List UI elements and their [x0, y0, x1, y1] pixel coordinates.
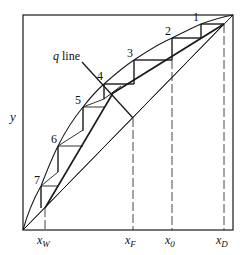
intersection-mark [104, 86, 121, 99]
stage-label-6: 6 [51, 132, 57, 146]
stage-label-3: 3 [127, 46, 133, 60]
mccabe-thiele-diagram: 1 2 3 4 5 6 7 q line y xW xF x0 xD [0, 0, 248, 255]
xw-label: xW [36, 233, 51, 249]
stage-label-4: 4 [97, 69, 103, 83]
y-axis-label: y [8, 109, 16, 124]
xd-label: xD [215, 233, 228, 249]
xf-label: xF [124, 233, 136, 249]
stage-label-2: 2 [165, 24, 171, 38]
stripping-operating-line [45, 93, 113, 208]
stage-label-1: 1 [193, 10, 199, 24]
x0-label: x0 [164, 233, 175, 249]
q-line [82, 62, 133, 118]
diagram-canvas: 1 2 3 4 5 6 7 q line y xW xF x0 xD [0, 0, 248, 255]
q-line-label: q line [53, 49, 80, 63]
stage-label-7: 7 [34, 173, 40, 187]
stage-label-5: 5 [75, 93, 81, 107]
